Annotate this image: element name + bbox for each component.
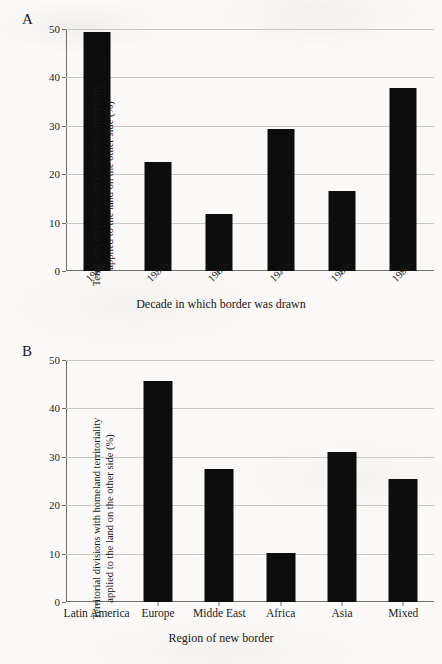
y-tick-mark — [62, 126, 66, 127]
bar — [389, 479, 418, 602]
x-tick-label: Africa — [266, 608, 295, 620]
y-tick-mark — [62, 602, 66, 603]
bar — [145, 162, 172, 271]
panel-a-x-axis-title: Decade in which border was drawn — [0, 298, 442, 310]
y-tick-label: 30 — [49, 451, 60, 462]
bar — [390, 88, 417, 271]
bar — [266, 553, 295, 602]
y-tick-mark — [62, 223, 66, 224]
panel-a-y-axis-title: Territorial divisions with homeland terr… — [91, 61, 116, 311]
panel-a-y-axis-title-line2: applied to the land on the other side (%… — [103, 61, 116, 311]
panel-a-letter: A — [22, 12, 33, 27]
gridline — [66, 126, 434, 127]
gridline — [66, 174, 434, 175]
y-tick-label: 40 — [49, 72, 60, 83]
y-tick-label: 0 — [55, 266, 61, 277]
panel-a-y-axis — [66, 29, 67, 271]
y-tick-label: 10 — [49, 217, 60, 228]
y-tick-label: 20 — [49, 500, 60, 511]
y-tick-mark — [62, 554, 66, 555]
y-tick-label: 0 — [55, 597, 61, 608]
y-tick-mark — [62, 77, 66, 78]
y-tick-label: 10 — [49, 548, 60, 559]
bar — [144, 381, 173, 602]
y-tick-label: 50 — [49, 24, 60, 35]
y-tick-label: 50 — [49, 355, 60, 366]
y-tick-mark — [62, 271, 66, 272]
y-tick-mark — [62, 408, 66, 409]
panel-a-y-axis-title-line1: Territorial divisions with homeland terr… — [91, 61, 104, 311]
x-tick-label: Midde East — [193, 608, 246, 620]
y-tick-label: 40 — [49, 403, 60, 414]
y-tick-mark — [62, 174, 66, 175]
panel-b-letter: B — [22, 344, 32, 359]
gridline — [66, 77, 434, 78]
gridline — [66, 29, 434, 30]
gridline — [66, 554, 434, 555]
bar — [267, 129, 294, 271]
x-tick-mark — [342, 602, 343, 606]
y-tick-mark — [62, 29, 66, 30]
x-tick-mark — [280, 602, 281, 606]
gridline — [66, 457, 434, 458]
panel-b-x-axis-title: Region of new border — [0, 632, 442, 644]
bar — [328, 452, 357, 602]
panel-a-x-axis — [66, 270, 434, 271]
y-tick-label: 30 — [49, 120, 60, 131]
y-tick-mark — [62, 457, 66, 458]
panel-b-y-axis — [66, 360, 67, 602]
panel-b-plot-area: 01020304050 Latin AmericaEuropeMidde Eas… — [66, 360, 434, 602]
panel-b-y-axis-title-line1: Territorial divisions with homeland terr… — [91, 394, 104, 644]
y-tick-label: 20 — [49, 169, 60, 180]
figure-page: A 01020304050 1940s1950s1960s1970s1980s1… — [0, 0, 442, 664]
x-tick-mark — [219, 602, 220, 606]
panel-b-x-axis — [66, 601, 434, 602]
x-tick-label: Mixed — [388, 608, 418, 620]
bar — [205, 469, 234, 602]
gridline — [66, 223, 434, 224]
x-tick-label: Asia — [331, 608, 352, 620]
gridline — [66, 408, 434, 409]
x-tick-mark — [158, 602, 159, 606]
panel-b-y-axis-title-line2: applied to the land on the other side (%… — [103, 394, 116, 644]
panel-a-plot-area: 01020304050 1940s1950s1960s1970s1980s199… — [66, 29, 434, 271]
panel-b: B 01020304050 Latin AmericaEuropeMidde E… — [0, 332, 442, 664]
gridline — [66, 505, 434, 506]
bar — [329, 191, 356, 271]
x-tick-label: Europe — [141, 608, 174, 620]
panel-a: A 01020304050 1940s1950s1960s1970s1980s1… — [0, 0, 442, 332]
y-tick-mark — [62, 360, 66, 361]
x-tick-mark — [403, 602, 404, 606]
panel-b-y-axis-title: Territorial divisions with homeland terr… — [91, 394, 116, 644]
gridline — [66, 360, 434, 361]
y-tick-mark — [62, 505, 66, 506]
